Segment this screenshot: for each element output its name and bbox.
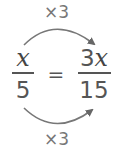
right-denominator: 15 bbox=[76, 79, 112, 102]
equivalent-fractions-diagram: ×3 x 5 = 3x 15 ×3 bbox=[0, 0, 132, 158]
bottom-multiplier-label: ×3 bbox=[44, 131, 69, 148]
equals-sign: = bbox=[47, 64, 65, 84]
left-numerator: x bbox=[12, 46, 34, 70]
right-numerator: 3x bbox=[76, 46, 112, 70]
bottom-arrow-icon bbox=[24, 108, 92, 124]
right-numerator-coef: 3 bbox=[80, 45, 95, 71]
left-fraction-bar bbox=[12, 72, 34, 74]
top-arrow-icon bbox=[24, 29, 94, 45]
right-numerator-var: x bbox=[95, 44, 109, 72]
left-denominator: 5 bbox=[12, 79, 34, 102]
right-fraction-bar bbox=[78, 72, 111, 74]
top-multiplier-label: ×3 bbox=[44, 4, 69, 21]
